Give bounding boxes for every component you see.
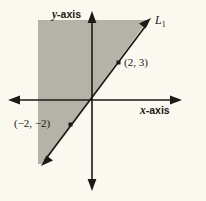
shaded-region: [38, 20, 148, 164]
line-l1-label-subscript: 1: [162, 20, 166, 29]
point-label-2-3: (2, 3): [124, 57, 148, 68]
coordinate-plane-svg: [0, 0, 206, 201]
point-marker-neg2-neg2: [69, 123, 73, 127]
line-l1-label: L1: [155, 14, 166, 29]
y-axis-label: y-axis: [52, 9, 81, 21]
y-axis-arrow-up: [88, 11, 97, 23]
x-axis-arrow-right: [170, 96, 182, 105]
line-l1-label-name: L: [155, 13, 162, 27]
y-axis-label-suffix: -axis: [57, 8, 81, 20]
point-marker-2-3: [117, 61, 121, 65]
point-label-neg2-neg2: (−2, −2): [14, 118, 50, 129]
x-axis-arrow-left: [8, 96, 20, 105]
math-figure: y-axis x-axis L1 (2, 3) (−2, −2): [0, 0, 206, 201]
x-axis-label: x-axis: [140, 105, 170, 117]
y-axis-arrow-down: [88, 179, 97, 191]
x-axis-label-suffix: -axis: [146, 104, 170, 116]
